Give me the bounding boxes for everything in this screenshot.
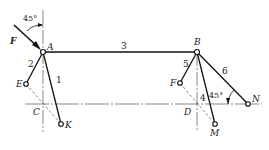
joint-label-K: K — [64, 120, 73, 130]
angle-label-N: 45° — [209, 91, 223, 100]
link-label-5: 5 — [183, 59, 189, 69]
linkage-diagram: F 45° A B C D E F K M N 1 2 3 4 5 6 45° — [0, 0, 269, 150]
joint-label-E: E — [15, 79, 23, 89]
joint-M — [213, 122, 218, 127]
joint-label-F: F — [169, 78, 177, 88]
angle-label-A: 45° — [23, 14, 37, 23]
joint-K — [59, 122, 64, 127]
link-label-3: 3 — [121, 41, 127, 51]
joint-B — [195, 50, 200, 55]
joint-F — [178, 81, 183, 86]
link-label-1: 1 — [56, 75, 62, 85]
angle-arc-N-arrowhead-icon — [226, 98, 230, 104]
joint-label-A: A — [46, 42, 54, 52]
angle-arc-N — [228, 90, 234, 104]
joint-N — [246, 102, 251, 107]
link-label-4: 4 — [200, 93, 206, 103]
joint-label-N: N — [251, 94, 261, 104]
joint-label-B: B — [193, 37, 201, 47]
joint-label-M: M — [209, 128, 220, 138]
joint-label-D: D — [183, 107, 191, 117]
joint-label-C: C — [33, 107, 40, 117]
force-label: F — [9, 36, 17, 46]
joint-E — [24, 82, 29, 87]
joint-A — [41, 50, 46, 55]
link-label-2: 2 — [28, 59, 34, 69]
link-1 — [43, 52, 61, 124]
link-label-6: 6 — [222, 66, 228, 76]
angle-arc-arrowhead-icon — [38, 23, 43, 27]
link-4 — [197, 52, 215, 124]
